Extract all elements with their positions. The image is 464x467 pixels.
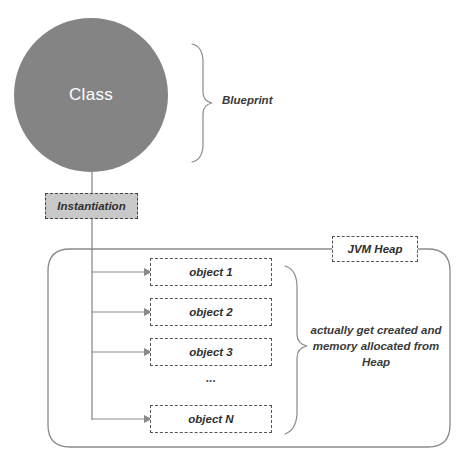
jvm-heap-node[interactable]: JVM Heap xyxy=(332,236,418,262)
blueprint-annotation: Blueprint xyxy=(222,94,272,106)
heap-note-annotation: actually get created and memory allocate… xyxy=(306,322,446,370)
object-label: object 2 xyxy=(189,306,232,318)
instantiation-node[interactable]: Instantiation xyxy=(45,193,138,219)
class-label: Class xyxy=(14,18,168,172)
object-label: object N xyxy=(188,413,233,425)
jvm-heap-label: JVM Heap xyxy=(348,243,403,255)
object-node-n[interactable]: object N xyxy=(150,405,272,433)
object-node-3[interactable]: object 3 xyxy=(150,338,272,366)
diagram-canvas: Class Blueprint Instantiation JVM Heap o… xyxy=(0,0,464,467)
object-node-2[interactable]: object 2 xyxy=(150,298,272,326)
object-node-1[interactable]: object 1 xyxy=(150,258,272,286)
brace-heap-note xyxy=(285,266,307,434)
object-list-ellipsis: ... xyxy=(150,371,272,385)
brace-blueprint xyxy=(192,44,212,162)
object-label: object 1 xyxy=(189,266,232,278)
object-arrows xyxy=(92,268,152,423)
object-label: object 3 xyxy=(189,346,232,358)
instantiation-label: Instantiation xyxy=(57,200,125,212)
